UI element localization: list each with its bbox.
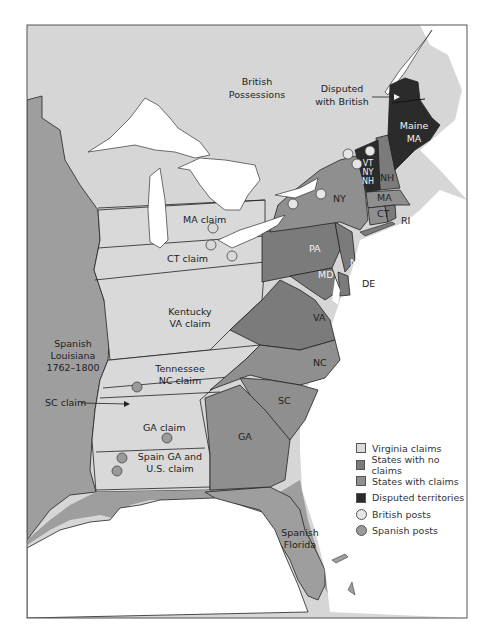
label-ga-claim: GA claim: [143, 422, 185, 433]
label-spain-ga-us-claim: Spain GA andU.S. claim: [138, 451, 202, 474]
disputed-territories-swatch-icon: [356, 493, 366, 503]
label-ma-claim: MA claim: [183, 214, 226, 225]
label-md: MD: [318, 269, 334, 280]
legend-item-british-posts: British posts: [356, 506, 466, 523]
legend-label: Disputed territories: [372, 492, 464, 503]
label-nj: NJ: [350, 257, 360, 268]
british-post-dot-icon: [356, 509, 367, 520]
legend-item-spanish-posts: Spanish posts: [356, 523, 466, 540]
label-vt: VTNYNH: [362, 159, 374, 186]
label-sc-claim: SC claim: [45, 397, 86, 408]
label-ct: CT: [377, 208, 390, 219]
label-sc: SC: [278, 395, 291, 406]
label-nh: NH: [380, 172, 394, 183]
label-pa: PA: [309, 243, 321, 254]
states-with-claims-swatch-icon: [356, 476, 366, 486]
label-nc: NC: [313, 357, 327, 368]
label-tennessee: TennesseeNC claim: [154, 363, 205, 386]
label-de: DE: [362, 278, 375, 289]
territorial-claims-map: BritishPossessions Disputedwith British …: [0, 0, 487, 636]
spanish-post-dot-icon: [356, 525, 367, 536]
map-legend: Virginia claims States with no claims St…: [356, 440, 466, 539]
legend-label: Spanish posts: [372, 525, 438, 536]
legend-label: Virginia claims: [372, 443, 441, 454]
label-ga: GA: [238, 431, 252, 442]
legend-item-states-no-claims: States with no claims: [356, 457, 466, 474]
label-ct-claim: CT claim: [167, 253, 208, 264]
states-no-claims-swatch-icon: [356, 460, 365, 470]
legend-item-states-with-claims: States with claims: [356, 473, 466, 490]
virginia-claims-swatch-icon: [356, 443, 366, 453]
label-spanish-louisiana: SpanishLouisiana1762–1800: [46, 338, 99, 373]
legend-label: States with no claims: [371, 454, 466, 476]
label-kentucky: KentuckyVA claim: [168, 306, 212, 329]
legend-label: States with claims: [372, 476, 459, 487]
label-ma: MA: [377, 192, 392, 203]
label-ri: RI: [401, 215, 410, 226]
label-ny: NY: [333, 193, 346, 204]
legend-item-disputed-territories: Disputed territories: [356, 490, 466, 507]
legend-label: British posts: [372, 509, 431, 520]
label-va: VA: [313, 312, 326, 323]
label-spanish-florida: SpanishFlorida: [281, 527, 319, 550]
